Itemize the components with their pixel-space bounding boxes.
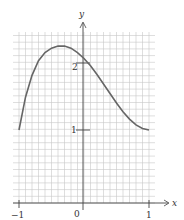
y-tick-1: 1 [71, 125, 77, 135]
x-tick-1: 1 [146, 210, 152, 220]
x-tick-0: 0 [74, 209, 80, 219]
y-tick-2: 2 [72, 62, 78, 72]
x-tick-neg1: −1 [11, 210, 24, 220]
y-axis-label: y [78, 9, 85, 19]
chart: x y −1 0 1 1 2 [0, 0, 184, 220]
x-axis-label: x [172, 198, 177, 208]
